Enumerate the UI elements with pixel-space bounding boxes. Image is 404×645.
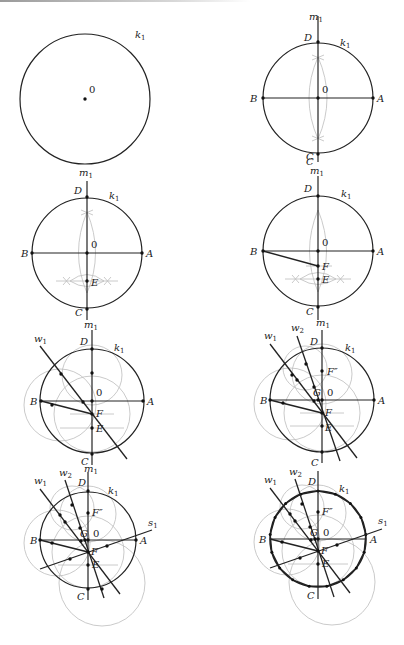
polygon-vertex xyxy=(363,551,366,554)
point-label: E xyxy=(321,274,330,285)
point-label: D xyxy=(303,32,312,43)
construction-point xyxy=(316,510,319,513)
point-label: B xyxy=(249,93,257,104)
construction-step-3: m1Dk10BAECm1 xyxy=(20,167,153,332)
construction-point xyxy=(85,307,88,310)
point-label: F″ xyxy=(326,366,338,377)
construction-point xyxy=(280,540,283,543)
construction-point xyxy=(100,587,103,590)
point-label: E xyxy=(95,423,104,434)
construction-point xyxy=(316,562,319,565)
point-label: A xyxy=(139,535,147,546)
point-label: k1 xyxy=(114,342,125,355)
point-label: C xyxy=(306,306,314,317)
point-label: s1 xyxy=(378,515,388,528)
point-label: k1 xyxy=(135,29,146,42)
construction-point xyxy=(372,398,375,401)
construction-point xyxy=(90,347,93,350)
construction-point xyxy=(316,398,319,401)
construction-point xyxy=(90,399,93,402)
point-label: A xyxy=(376,93,384,104)
construction-point xyxy=(371,249,374,252)
construction-point xyxy=(50,403,53,406)
point-label: w1 xyxy=(34,333,47,346)
construction-point xyxy=(298,556,301,559)
point-label: E xyxy=(324,422,333,433)
polygon-vertex xyxy=(274,516,277,519)
point-label: A xyxy=(377,395,385,406)
construction-point xyxy=(90,412,93,415)
construction-point xyxy=(316,40,319,43)
point-label: A xyxy=(145,248,153,259)
point-label: F xyxy=(95,408,104,419)
construction-point xyxy=(58,513,61,516)
point-label: 0 xyxy=(323,527,329,538)
construction-step-8: w2w1Dk1F″s1G0BAFEC xyxy=(254,466,388,625)
construction-point xyxy=(316,277,319,280)
point-label: A xyxy=(369,534,377,545)
construction-point xyxy=(293,519,296,522)
polygon-vertex xyxy=(269,533,272,536)
construction-point xyxy=(79,539,82,542)
construction-point xyxy=(320,346,323,349)
construction-point xyxy=(309,538,312,541)
point-label: B xyxy=(249,246,257,257)
point-label: B xyxy=(29,396,37,407)
construction-point xyxy=(85,279,88,282)
construction-step-7: w2w1Dk1F″s1G0BAFEC xyxy=(24,467,158,626)
construction-point xyxy=(295,378,298,381)
point-label: w1 xyxy=(264,330,277,343)
polygon-vertex xyxy=(291,578,294,581)
construction-step-4: Cm1Dk10BAFECm1 xyxy=(249,156,384,330)
construction-point xyxy=(316,249,319,252)
polygon-vertex xyxy=(349,502,352,505)
point-label: m1 xyxy=(309,11,323,24)
point-label: 0 xyxy=(327,387,333,398)
construction-point xyxy=(86,489,89,492)
construction-point xyxy=(316,264,319,267)
polygon-vertex xyxy=(359,516,362,519)
point-label: 0 xyxy=(93,528,99,539)
construction-point xyxy=(85,195,88,198)
polygon-vertex xyxy=(355,566,358,569)
polygon-vertex xyxy=(278,566,281,569)
point-label: D xyxy=(309,336,318,347)
construction-point xyxy=(316,194,319,197)
point-label: G xyxy=(313,387,321,398)
point-label: m1 xyxy=(79,167,93,180)
point-label: F″ xyxy=(91,507,103,518)
point-label: F xyxy=(90,546,99,557)
point-label: D xyxy=(77,477,86,488)
construction-point xyxy=(141,399,144,402)
construction-point xyxy=(281,401,284,404)
construction-point xyxy=(39,399,42,402)
construction-point xyxy=(86,587,89,590)
construction-point xyxy=(86,511,89,514)
construction-point xyxy=(320,411,323,414)
point-label: B xyxy=(29,535,37,546)
construction-point xyxy=(63,520,66,523)
point-label: 0 xyxy=(322,84,328,95)
construction-point xyxy=(59,372,62,375)
construction-point xyxy=(86,563,89,566)
point-label: w2 xyxy=(59,467,72,480)
construction-step-2: m1Dk10BAC xyxy=(249,11,384,162)
point-label: A xyxy=(376,246,384,257)
polygon-vertex xyxy=(325,585,328,588)
point-label: F″ xyxy=(321,506,333,517)
construction-point xyxy=(86,550,89,553)
construction-point xyxy=(261,96,264,99)
auxiliary-circle xyxy=(59,540,145,626)
point-label: k1 xyxy=(109,190,120,203)
construction-step-5: w1Dk10BAFECm1 xyxy=(24,330,154,476)
construction-point xyxy=(320,369,323,372)
construction-point xyxy=(304,362,307,365)
construction-point xyxy=(335,543,338,546)
construction-point xyxy=(105,544,108,547)
construction-point xyxy=(30,251,33,254)
point-label: s1 xyxy=(148,517,158,530)
point-label: m1 xyxy=(310,165,324,178)
polygon-vertex xyxy=(342,578,345,581)
point-label: 0 xyxy=(91,239,97,250)
point-label: E xyxy=(321,558,330,569)
